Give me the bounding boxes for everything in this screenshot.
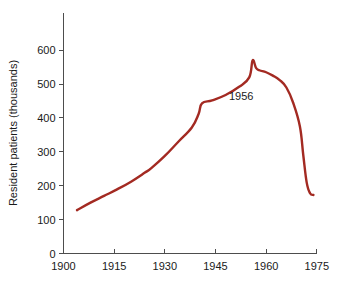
y-tick-label: 0: [49, 248, 55, 260]
line-chart: 0100200300400500600 19001915193019451960…: [0, 0, 342, 287]
y-tick-label: 200: [37, 180, 55, 192]
y-tick-label: 400: [37, 112, 55, 124]
y-tick-label: 500: [37, 78, 55, 90]
annotation-peak-year: 1956: [229, 90, 253, 102]
x-tick-label: 1930: [153, 260, 177, 272]
x-tick-label: 1900: [51, 260, 75, 272]
x-tick-label: 1975: [305, 260, 329, 272]
y-tick-label: 600: [37, 44, 55, 56]
x-tick-label: 1945: [203, 260, 227, 272]
y-tick-label: 100: [37, 214, 55, 226]
chart-background: [0, 0, 342, 287]
chart-container: 0100200300400500600 19001915193019451960…: [0, 0, 342, 287]
x-tick-label: 1960: [254, 260, 278, 272]
y-tick-label: 300: [37, 146, 55, 158]
x-tick-label: 1915: [102, 260, 126, 272]
y-axis-title: Resident patients (thousands): [7, 60, 19, 206]
